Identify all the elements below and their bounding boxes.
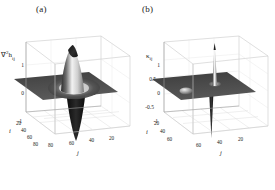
panel-b-label: (b)	[142, 4, 153, 14]
panel-b-jtick-2: 20	[238, 136, 243, 142]
panel-b-jtick-1: 40	[217, 139, 222, 145]
panel-a-jtick-2: 40	[89, 137, 94, 143]
panel-b: (b) κij 1 0.5 0 -0.5 -1	[138, 0, 275, 190]
panel-a-jtick-3: 20	[109, 135, 114, 141]
panel-b-plane	[152, 72, 256, 100]
panel-b-itick-1: 40	[160, 128, 165, 134]
panel-b-itick-0: 20	[154, 120, 159, 126]
panel-a-itick-1: 40	[21, 127, 26, 133]
panel-a-plot-box	[0, 34, 137, 186]
panel-a-jtick-1: 60	[69, 140, 74, 146]
panel-b-bump	[180, 88, 193, 95]
panel-a-itick-3: 80	[33, 141, 38, 147]
panel-a: (a) ∇2hij 1 0 -1	[0, 0, 137, 190]
panel-a-itick-2: 60	[27, 134, 32, 140]
panel-a-jaxis-name: j	[77, 149, 79, 156]
panel-b-jtick-0: 60	[196, 142, 201, 148]
panel-a-itick-0: 20	[16, 120, 21, 126]
panel-b-plot-box	[138, 34, 275, 186]
panel-b-jaxis-name: j	[220, 149, 222, 156]
panel-a-iaxis-name: i	[9, 127, 11, 134]
figure-root: (a) ∇2hij 1 0 -1	[0, 0, 275, 190]
panel-a-label: (a)	[36, 4, 47, 14]
panel-a-jtick-0: 80	[48, 142, 53, 148]
panel-a-scene: ∇2hij 1 0 -1	[0, 34, 137, 186]
panel-b-itick-2: 60	[167, 136, 172, 142]
panel-b-scene: κij 1 0.5 0 -0.5 -1	[138, 34, 275, 186]
panel-b-iaxis-name: i	[146, 128, 148, 135]
